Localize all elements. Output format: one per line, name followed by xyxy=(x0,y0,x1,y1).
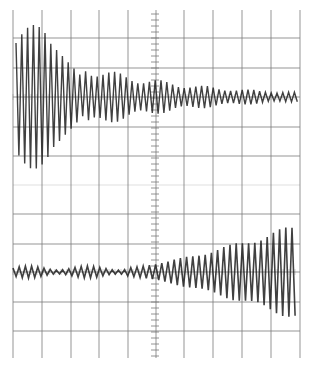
oscilloscope-graticule xyxy=(0,0,309,372)
oscilloscope-photo xyxy=(0,0,309,372)
lower-trace-waveform xyxy=(13,228,295,317)
upper-trace-waveform xyxy=(16,25,297,169)
